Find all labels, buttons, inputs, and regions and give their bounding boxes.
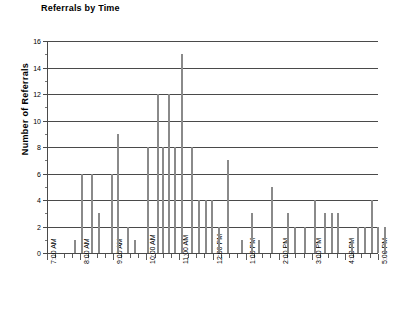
x-tick-mark-major: [80, 254, 81, 260]
x-tick-mark-minor: [130, 254, 131, 258]
bar-series: [47, 41, 378, 253]
x-tick-mark-minor: [237, 254, 238, 258]
bar: [91, 174, 93, 254]
x-tick-mark-major: [179, 254, 180, 260]
x-tick-mark-major: [312, 254, 313, 260]
bar: [324, 213, 326, 253]
referrals-by-time-chart: Referrals by Time Number of Referrals 02…: [0, 0, 404, 311]
bar: [98, 213, 100, 253]
bar: [364, 227, 366, 254]
x-tick-mark-minor: [295, 254, 296, 258]
x-tick-mark-major: [146, 254, 147, 260]
bar: [331, 213, 333, 253]
bar: [384, 227, 386, 254]
x-tick-mark-minor: [204, 254, 205, 258]
bar: [218, 227, 220, 254]
x-tick-mark-major: [113, 254, 114, 260]
y-tick-label: 10: [19, 118, 41, 125]
bar: [74, 240, 76, 253]
bar: [337, 213, 339, 253]
y-tick-label: 6: [19, 171, 41, 178]
y-tick-label: 8: [19, 144, 41, 151]
x-tick-mark-minor: [328, 254, 329, 258]
x-tick-mark-minor: [196, 254, 197, 258]
bar: [127, 227, 129, 254]
y-tick-label: 12: [19, 91, 41, 98]
bar: [147, 147, 149, 253]
x-tick-mark-minor: [270, 254, 271, 258]
x-tick-mark-major: [345, 254, 346, 260]
y-tick-label: 14: [19, 65, 41, 72]
x-tick-mark-major: [378, 254, 379, 260]
bar: [157, 94, 159, 253]
x-tick-mark-major: [213, 254, 214, 260]
bar: [351, 240, 353, 253]
x-tick-mark-minor: [72, 254, 73, 258]
x-tick-mark-minor: [97, 254, 98, 258]
bar: [205, 200, 207, 253]
bar: [111, 174, 113, 254]
y-tick-label: 2: [19, 224, 41, 231]
page-title: Referrals by Time: [41, 3, 120, 13]
bar: [81, 174, 83, 254]
bar: [211, 200, 213, 253]
y-axis-title: Number of Referrals: [20, 34, 30, 184]
x-tick-mark-minor: [105, 254, 106, 258]
x-tick-mark-minor: [304, 254, 305, 258]
x-tick-mark-minor: [361, 254, 362, 258]
x-tick-mark-minor: [138, 254, 139, 258]
bar: [294, 227, 296, 254]
x-tick-mark-minor: [229, 254, 230, 258]
bar: [258, 240, 260, 253]
bar: [174, 147, 176, 253]
bar: [241, 240, 243, 253]
bar: [198, 200, 200, 253]
bar: [371, 200, 373, 253]
x-tick-mark-minor: [262, 254, 263, 258]
x-tick-mark-minor: [171, 254, 172, 258]
x-tick-mark-major: [279, 254, 280, 260]
bar: [117, 134, 119, 253]
x-tick-mark-minor: [370, 254, 371, 258]
bar: [314, 200, 316, 253]
bar: [357, 227, 359, 254]
bar: [227, 160, 229, 253]
x-tick-mark-major: [246, 254, 247, 260]
x-tick-mark-minor: [64, 254, 65, 258]
x-tick-mark-major: [47, 254, 48, 260]
bar: [271, 187, 273, 253]
bar: [251, 213, 253, 253]
y-tick-label: 4: [19, 197, 41, 204]
x-tick-mark-minor: [163, 254, 164, 258]
y-tick-label: 0: [19, 250, 41, 257]
bar: [287, 213, 289, 253]
x-tick-mark-minor: [337, 254, 338, 258]
bar: [191, 147, 193, 253]
y-tick-label: 16: [19, 38, 41, 45]
bar: [162, 147, 164, 253]
bar: [304, 227, 306, 254]
bar: [181, 54, 183, 253]
bar: [168, 94, 170, 253]
bar: [134, 240, 136, 253]
bar: [377, 227, 379, 254]
